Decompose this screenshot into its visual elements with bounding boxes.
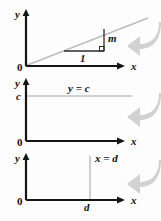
x-axis-label: x — [130, 135, 137, 147]
rise-label: m — [108, 32, 117, 44]
equation-label: y = c — [66, 82, 90, 94]
y-axis-arrowhead — [23, 78, 30, 85]
x-intercept-label: d — [84, 201, 90, 213]
equation-label: x = d — [94, 152, 118, 164]
curved-arrow-left-icon — [127, 22, 161, 56]
y-intercept-label: c — [16, 90, 21, 102]
panel-horizontal-line-graph: y x 0 c y = c — [0, 73, 161, 148]
linear-equations-figure: y x 0 1 m y x 0 c y = c — [0, 0, 161, 221]
slope-line — [25, 18, 148, 66]
origin-label: 0 — [17, 195, 23, 207]
x-axis-arrowhead — [117, 63, 125, 70]
curved-arrow-left-icon — [127, 160, 161, 194]
curved-arrow-left-icon — [127, 93, 161, 127]
right-angle-marker-icon — [100, 47, 105, 52]
run-label: 1 — [80, 52, 86, 64]
x-axis-arrowhead — [117, 138, 125, 145]
origin-label: 0 — [17, 136, 23, 148]
y-axis-arrowhead — [23, 9, 30, 16]
panel-slope-graph: y x 0 1 m — [0, 0, 161, 73]
x-axis-label: x — [130, 60, 137, 72]
y-axis-label: y — [13, 152, 20, 164]
y-axis-label: y — [13, 8, 20, 20]
panel-vertical-line-graph: y x 0 d x = d — [0, 148, 161, 221]
origin-label: 0 — [17, 61, 23, 73]
x-axis-label: x — [130, 194, 137, 206]
y-axis-arrowhead — [23, 153, 30, 160]
y-axis-label: y — [13, 77, 20, 89]
x-axis-arrowhead — [117, 197, 125, 204]
